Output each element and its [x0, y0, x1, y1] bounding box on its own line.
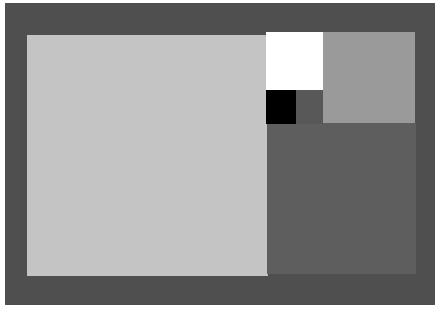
mid-gray-rectangle [323, 32, 415, 123]
small-dark-square [296, 90, 323, 124]
black-square [266, 90, 296, 124]
white-square [266, 32, 323, 90]
large-light-rectangle [27, 35, 268, 276]
lower-right-rectangle [267, 123, 416, 274]
